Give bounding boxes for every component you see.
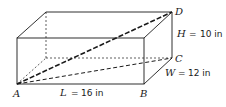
height-eq: = <box>189 29 197 39</box>
vertex-label-b: B <box>139 88 147 99</box>
width-value: 12 in <box>188 68 211 78</box>
front-face <box>17 38 144 84</box>
top-right-connector <box>144 12 172 38</box>
vertex-label-d: D <box>174 6 183 17</box>
width-eq: = <box>178 68 186 78</box>
vertex-label-c: C <box>175 53 183 64</box>
vertex-label-a: A <box>12 88 20 99</box>
height-var: H <box>176 28 186 39</box>
width-var: W <box>165 67 176 78</box>
width-label: W = 12 in <box>165 67 211 78</box>
diagonal-ad <box>17 12 172 84</box>
length-var: L <box>59 87 67 98</box>
hidden-bottom-left-edge <box>17 58 46 84</box>
height-label: H = 10 in <box>176 28 223 39</box>
length-label: L = 16 in <box>59 87 104 98</box>
length-eq: = <box>71 88 79 98</box>
height-value: 10 in <box>200 29 223 39</box>
length-value: 16 in <box>81 88 104 98</box>
top-left-connector <box>17 12 46 38</box>
box-diagram: A B C D H = 10 in W = 12 in L = 16 in <box>0 0 226 107</box>
